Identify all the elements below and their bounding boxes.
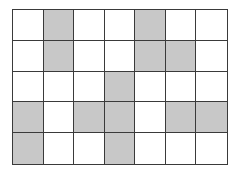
shaded-cell xyxy=(196,102,227,133)
shaded-cell xyxy=(44,10,75,41)
shaded-cell xyxy=(74,102,105,133)
shaded-cell xyxy=(105,72,136,103)
empty-cell xyxy=(13,72,44,103)
empty-cell xyxy=(166,133,197,164)
empty-cell xyxy=(44,102,75,133)
shaded-cell xyxy=(166,102,197,133)
empty-cell xyxy=(166,72,197,103)
shaded-cell xyxy=(105,102,136,133)
empty-cell xyxy=(74,10,105,41)
empty-cell xyxy=(196,133,227,164)
empty-cell xyxy=(135,102,166,133)
shaded-cell xyxy=(105,133,136,164)
empty-cell xyxy=(196,41,227,72)
shaded-cell xyxy=(13,133,44,164)
empty-cell xyxy=(74,133,105,164)
shaded-cell xyxy=(166,41,197,72)
empty-cell xyxy=(196,72,227,103)
empty-cell xyxy=(196,10,227,41)
empty-cell xyxy=(135,133,166,164)
empty-cell xyxy=(13,10,44,41)
empty-cell xyxy=(105,41,136,72)
shaded-grid xyxy=(12,9,228,165)
shaded-cell xyxy=(44,41,75,72)
empty-cell xyxy=(44,133,75,164)
empty-cell xyxy=(105,10,136,41)
empty-cell xyxy=(44,72,75,103)
empty-cell xyxy=(166,10,197,41)
shaded-cell xyxy=(135,10,166,41)
empty-cell xyxy=(74,72,105,103)
shaded-cell xyxy=(13,102,44,133)
empty-cell xyxy=(74,41,105,72)
empty-cell xyxy=(135,72,166,103)
shaded-cell xyxy=(135,41,166,72)
empty-cell xyxy=(13,41,44,72)
